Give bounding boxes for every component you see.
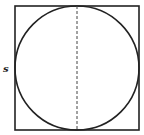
inscribed-circle-diagram: s bbox=[0, 0, 144, 135]
side-length-label: s bbox=[3, 63, 9, 74]
